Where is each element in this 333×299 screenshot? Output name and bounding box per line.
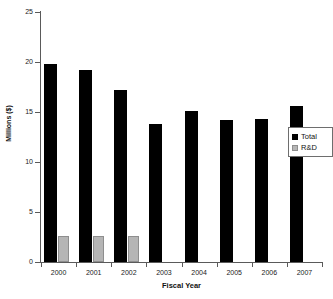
x-axis-title: Fiscal Year <box>41 281 322 290</box>
chart-legend: TotalR&D <box>288 127 333 157</box>
x-tick-label-2003: 2003 <box>144 269 184 277</box>
legend-item-total: Total <box>292 131 330 142</box>
plot-area <box>41 12 322 262</box>
x-tick-mark <box>182 262 183 267</box>
y-axis-title: Millions ($) <box>5 89 12 159</box>
bar-total-2006 <box>255 119 268 262</box>
x-tick-mark <box>41 262 42 267</box>
bar-total-2002 <box>114 90 127 262</box>
bar-rd-2002 <box>128 236 139 263</box>
x-tick-mark <box>252 262 253 267</box>
legend-swatch-icon <box>292 134 298 140</box>
x-tick-mark <box>76 262 77 267</box>
bar-total-2001 <box>79 70 92 262</box>
x-tick-label-2007: 2007 <box>284 269 324 277</box>
y-tick-label: 5 <box>3 208 33 215</box>
legend-item-rd: R&D <box>292 142 330 153</box>
x-tick-label-2001: 2001 <box>74 269 114 277</box>
y-tick-label: 20 <box>3 58 33 65</box>
x-tick-label-2006: 2006 <box>249 269 289 277</box>
y-tick-label-wrap: 15 <box>0 108 33 116</box>
bar-rd-2000 <box>58 236 69 262</box>
y-tick-label-wrap: 25 <box>0 8 33 16</box>
x-tick-mark <box>217 262 218 267</box>
bar-chart: Millions ($) 0510152025 2000200120022003… <box>0 0 333 299</box>
x-tick-label-2004: 2004 <box>179 269 219 277</box>
x-tick-mark <box>322 262 323 267</box>
y-tick-label-wrap: 5 <box>0 208 33 216</box>
bar-total-2003 <box>149 124 162 262</box>
y-tick-label-wrap: 20 <box>0 58 33 66</box>
x-tick-label-2002: 2002 <box>109 269 149 277</box>
legend-label: R&D <box>301 144 317 152</box>
legend-label: Total <box>301 133 317 141</box>
legend-swatch-icon <box>292 145 298 151</box>
y-tick-label-wrap: 10 <box>0 158 33 166</box>
y-tick-label: 0 <box>3 258 33 265</box>
bar-total-2004 <box>185 111 198 262</box>
bar-total-2005 <box>220 120 233 262</box>
y-tick-label: 25 <box>3 8 33 15</box>
x-tick-label-2000: 2000 <box>39 269 79 277</box>
y-tick-label: 10 <box>3 158 33 165</box>
x-tick-mark <box>287 262 288 267</box>
x-tick-mark <box>111 262 112 267</box>
y-tick-label: 15 <box>3 108 33 115</box>
x-tick-label-2005: 2005 <box>214 269 254 277</box>
y-tick-label-wrap: 0 <box>0 258 33 266</box>
bar-total-2000 <box>44 64 57 262</box>
bar-rd-2001 <box>93 236 104 262</box>
x-tick-mark <box>146 262 147 267</box>
